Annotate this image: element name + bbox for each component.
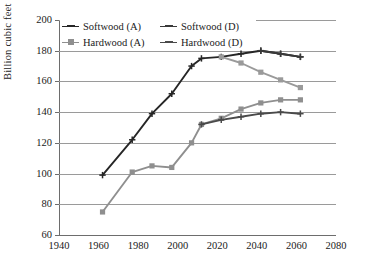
x-tick-label: 2080 — [326, 241, 347, 252]
y-tick-label: 80 — [42, 199, 53, 210]
data-point-marker — [258, 70, 263, 75]
series-line — [201, 112, 300, 124]
data-point-marker — [297, 54, 303, 60]
data-point-marker — [149, 163, 154, 168]
data-point-marker — [238, 106, 243, 111]
legend-label: Hardwood (A) — [83, 37, 145, 48]
legend-label: Softwood (D) — [181, 21, 239, 32]
data-point-marker — [258, 110, 264, 116]
series-lines — [59, 20, 336, 235]
y-axis-title: Billion cubic feet — [2, 4, 13, 81]
data-point-marker — [258, 100, 263, 105]
y-tick-mark — [55, 235, 59, 236]
data-point-marker — [238, 114, 244, 120]
x-tick-label: 2060 — [286, 241, 307, 252]
x-axis-line — [59, 235, 336, 236]
data-point-marker — [298, 97, 303, 102]
legend-entry: Softwood (D) — [158, 21, 256, 32]
data-point-marker — [277, 51, 283, 57]
y-tick-label: 140 — [36, 107, 52, 118]
x-tick-label: 2020 — [207, 241, 228, 252]
chart-figure: Billion cubic feet 608010012014016018020… — [0, 0, 379, 267]
series-line — [103, 100, 301, 212]
x-tick-label: 1960 — [88, 241, 109, 252]
data-point-marker — [100, 209, 105, 214]
plus-marker-icon — [160, 21, 177, 31]
data-point-marker — [258, 48, 264, 54]
data-point-marker — [278, 97, 283, 102]
data-point-marker — [277, 109, 283, 115]
data-point-marker — [298, 85, 303, 90]
plus-marker-icon — [160, 37, 177, 47]
data-point-marker — [219, 54, 224, 59]
data-point-marker — [169, 165, 174, 170]
y-tick-label: 60 — [42, 230, 53, 241]
legend-label: Softwood (A) — [83, 21, 141, 32]
chart-legend: Softwood (A)Softwood (D)Hardwood (A)Hard… — [60, 18, 256, 50]
x-tick-label: 2000 — [167, 241, 188, 252]
y-tick-label: 100 — [36, 169, 52, 180]
x-tick-label: 1940 — [49, 241, 70, 252]
y-tick-label: 160 — [36, 76, 52, 87]
y-tick-label: 120 — [36, 138, 52, 149]
y-tick-label: 180 — [36, 46, 52, 57]
plus-marker-icon — [62, 21, 79, 31]
data-point-marker — [189, 140, 194, 145]
y-tick-label: 200 — [36, 15, 52, 26]
x-tick-label: 2040 — [246, 241, 267, 252]
data-point-marker — [297, 110, 303, 116]
x-tick-label: 1980 — [128, 241, 149, 252]
plot-area — [59, 20, 336, 235]
legend-entry: Hardwood (D) — [158, 37, 256, 48]
data-point-marker — [238, 60, 243, 65]
legend-entry: Hardwood (A) — [60, 37, 158, 48]
data-point-marker — [278, 77, 283, 82]
legend-entry: Softwood (A) — [60, 21, 158, 32]
square-marker-icon — [62, 37, 79, 47]
data-point-marker — [238, 51, 244, 57]
legend-label: Hardwood (D) — [181, 37, 243, 48]
data-point-marker — [130, 169, 135, 174]
